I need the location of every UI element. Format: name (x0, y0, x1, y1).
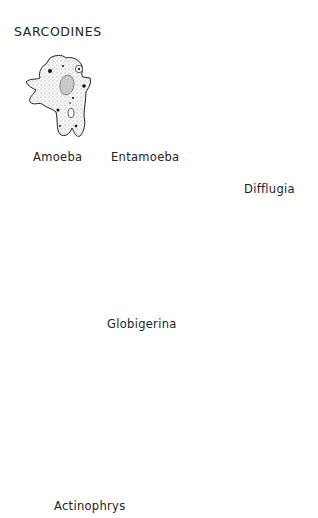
illustration-canvas (0, 0, 318, 518)
label-difflugia: Difflugia (244, 182, 295, 196)
label-globigerina: Globigerina (107, 317, 177, 331)
label-amoeba: Amoeba (33, 150, 82, 164)
label-entamoeba: Entamoeba (111, 150, 179, 164)
label-actinophrys: Actinophrys (54, 499, 125, 513)
amoeba-drawing (26, 55, 91, 136)
